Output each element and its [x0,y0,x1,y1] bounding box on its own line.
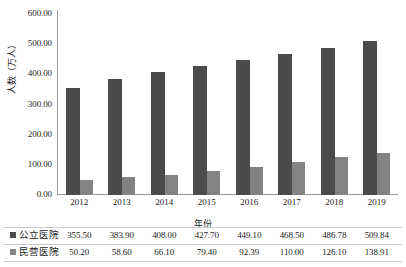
y-tick-label: 500.00 [8,39,52,48]
x-tick-label: 2012 [56,197,102,207]
y-tick-label: 600.00 [8,9,52,18]
legend-swatch-icon [10,249,16,255]
bar-private [122,177,135,195]
bar-group [313,14,356,195]
table-cell: 92.39 [226,247,272,257]
table-cell: 486.78 [311,230,357,240]
plot-area: 人数（万人） 0.00100.00200.00300.00400.00500.0… [0,0,406,212]
bar-private [207,171,220,195]
bar-private [292,162,305,195]
bar-groups [58,14,398,195]
bar-group [186,14,229,195]
y-tick-label: 200.00 [8,129,52,138]
y-tick-label: 100.00 [8,159,52,168]
bar-private [80,180,93,195]
bar-public [108,79,122,195]
bar-public [193,66,207,195]
bar-public [278,54,292,195]
y-tick-label: 0.00 [8,190,52,199]
bar-group [271,14,314,195]
table-cell: 427.70 [184,230,230,240]
chart-figure: 人数（万人） 0.00100.00200.00300.00400.00500.0… [0,0,406,267]
table-cell: 58.60 [99,247,145,257]
bar-public [321,48,335,195]
table-cell: 66.10 [141,247,187,257]
table-cell: 509.84 [354,230,400,240]
x-tick-label: 2019 [354,197,400,207]
table-cell: 126.10 [311,247,357,257]
table-cell: 110.00 [269,247,315,257]
table-cell: 355.50 [56,230,102,240]
bar-private [335,157,348,195]
y-tick-label: 300.00 [8,99,52,108]
bar-public [66,88,80,195]
table-rule [4,244,402,245]
x-tick-label: 2016 [226,197,272,207]
table-cell: 449.10 [226,230,272,240]
legend-series-name: 民营医院 [19,247,59,257]
bar-group [101,14,144,195]
table-cell: 468.50 [269,230,315,240]
bar-private [250,167,263,195]
x-tick-label: 2014 [141,197,187,207]
bar-public [151,72,165,195]
table-rule [4,261,402,262]
bar-private [165,175,178,195]
bar-group [143,14,186,195]
table-cell: 50.20 [56,247,102,257]
legend-series-name: 公立医院 [19,230,59,240]
table-cell: 408.00 [141,230,187,240]
table-cell: 79.40 [184,247,230,257]
bar-private [377,153,390,195]
bar-public [236,60,250,195]
legend-data-table: 公立医院355.50383.90408.00427.70449.10468.50… [0,230,406,264]
table-cell: 383.90 [99,230,145,240]
bar-public [363,41,377,195]
x-tick-label: 2015 [184,197,230,207]
y-axis-ticks: 0.00100.00200.00300.00400.00500.00600.00 [8,0,52,212]
bar-group [356,14,399,195]
table-cell: 138.91 [354,247,400,257]
bar-group [58,14,101,195]
x-tick-label: 2018 [311,197,357,207]
legend-swatch-icon [10,232,16,238]
y-tick-label: 400.00 [8,69,52,78]
x-tick-label: 2013 [99,197,145,207]
bar-group [228,14,271,195]
table-rule [4,227,402,228]
x-tick-label: 2017 [269,197,315,207]
